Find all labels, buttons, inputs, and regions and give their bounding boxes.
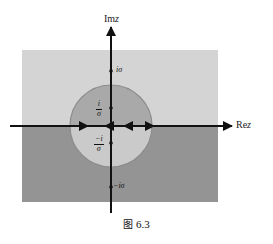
caption-number: 6.3	[136, 218, 150, 230]
imaginary-axis-label-var: z	[115, 13, 119, 24]
point-i-sigma-marker	[109, 69, 113, 73]
real-axis-label: Rez	[236, 119, 251, 130]
caption-symbol: 图	[123, 219, 133, 230]
label-minus-i-over-sigma: −i σ	[94, 135, 104, 154]
point-i-over-sigma-marker	[109, 106, 113, 110]
imaginary-axis-label: Imz	[104, 13, 119, 24]
label-i-over-sigma: i σ	[96, 100, 102, 119]
figure-caption: 图 6.3	[0, 216, 273, 231]
label-minus-i-over-sigma-denominator: σ	[94, 145, 104, 153]
real-axis-label-var: z	[247, 119, 251, 130]
label-minus-i-over-sigma-numerator: −i	[94, 135, 104, 143]
real-axis-label-prefix: Re	[236, 119, 247, 130]
point-minus-i-over-sigma-marker	[109, 141, 113, 145]
label-minus-i-sigma: −iσ	[113, 181, 125, 190]
label-i-sigma: iσ	[116, 65, 122, 74]
figure-container: Imz Rez iσ −iσ i σ −i σ 图 6.3	[0, 0, 273, 244]
complex-plane-diagram	[0, 0, 273, 244]
imaginary-axis-label-prefix: Im	[104, 13, 115, 24]
label-i-over-sigma-denominator: σ	[96, 110, 102, 118]
label-i-over-sigma-numerator: i	[96, 100, 102, 108]
